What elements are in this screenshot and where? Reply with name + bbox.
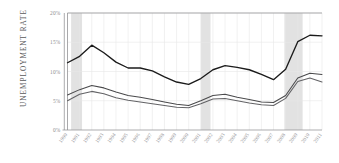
y-tick-label: 20% [50, 10, 61, 16]
x-tick-label: 1992 [81, 131, 92, 144]
y-axis-tick-labels-group: 0%5%10%15%20% [50, 10, 61, 133]
x-tick-label: 2005 [239, 131, 250, 144]
x-tick-label: 2000 [178, 131, 189, 144]
x-tick-label: 1997 [142, 131, 153, 144]
x-axis-tick-labels-group: 1990199119921993199419951996199719981999… [57, 131, 323, 144]
x-tick-label: 2008 [275, 131, 286, 144]
x-tick-label: 2007 [263, 131, 274, 144]
unemployment-rate-chart: UNEMPLOYMENT RATE 0%5%10%15%20% 19901991… [0, 0, 339, 163]
x-tick-label: 1991 [69, 131, 80, 144]
plot-area: 0%5%10%15%20% 19901991199219931994199519… [0, 0, 339, 163]
horizontal-gridlines-group [68, 13, 323, 101]
x-tick-label: 1995 [118, 131, 129, 144]
line-series-upper [68, 35, 323, 84]
x-tick-label: 1996 [130, 131, 141, 144]
x-tick-label: 2011 [312, 131, 323, 143]
x-tick-label: 2006 [251, 131, 262, 144]
y-tick-label: 5% [53, 98, 61, 104]
y-tick-label: 10% [50, 69, 61, 75]
x-tick-label: 1999 [166, 131, 177, 144]
y-tick-label: 0% [53, 127, 61, 133]
x-tick-label: 2003 [215, 131, 226, 144]
y-tick-label: 15% [50, 39, 61, 45]
x-tick-label: 1994 [106, 131, 117, 144]
x-tick-label: 2010 [300, 131, 311, 144]
x-tick-label: 1990 [57, 131, 68, 144]
x-tick-label: 2001 [191, 131, 202, 144]
x-tick-label: 1993 [94, 131, 105, 144]
x-tick-label: 1998 [154, 131, 165, 144]
x-tick-label: 2004 [227, 131, 238, 144]
x-tick-label: 2002 [203, 131, 214, 144]
x-tick-label: 2009 [287, 131, 298, 144]
chart-canvas: 0%5%10%15%20% 19901991199219931994199519… [0, 0, 339, 163]
